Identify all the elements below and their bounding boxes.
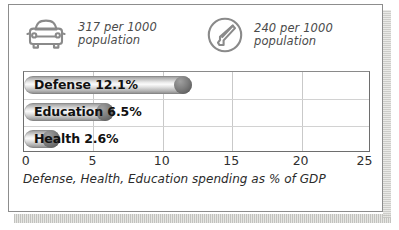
- x-tick-label: 25: [356, 153, 372, 168]
- stat-vehicles: 317 per 1000 population: [23, 15, 157, 53]
- panel-shadow-bottom: [14, 214, 391, 223]
- x-axis: 0510152025: [23, 153, 370, 170]
- white-panel: 317 per 1000 population 240 per 1000 pop…: [8, 4, 383, 212]
- x-tick-label: 0: [22, 153, 30, 168]
- x-tick-label: 5: [88, 153, 96, 168]
- x-tick-label: 15: [223, 153, 239, 168]
- bar-label-health: Health 2.6%: [34, 130, 118, 148]
- plot-area: Defense 12.1%Education 6.5%Health 2.6%: [23, 71, 370, 152]
- bar-label-education: Education 6.5%: [34, 103, 142, 121]
- car-icon: [23, 15, 69, 53]
- bar-row: Education 6.5%: [24, 99, 371, 126]
- bar-chart: Defense 12.1%Education 6.5%Health 2.6% 0…: [23, 71, 370, 186]
- infographic-panel-root: 317 per 1000 population 240 per 1000 pop…: [0, 0, 399, 230]
- bar-label-defense: Defense 12.1%: [34, 76, 138, 94]
- stat-phones-label: 240 per 1000 population: [254, 22, 333, 49]
- bar-cap-defense: [174, 76, 192, 94]
- x-tick-label: 20: [293, 153, 309, 168]
- stats-strip: 317 per 1000 population 240 per 1000 pop…: [9, 5, 382, 67]
- stat-phones: 240 per 1000 population: [205, 15, 333, 55]
- stat-vehicles-label: 317 per 1000 population: [78, 21, 157, 48]
- x-tick-label: 10: [154, 153, 170, 168]
- bar-row: Defense 12.1%: [24, 72, 371, 99]
- telephone-circle-icon: [205, 15, 245, 55]
- chart-caption: Defense, Health, Education spending as %…: [23, 172, 370, 186]
- bar-row: Health 2.6%: [24, 126, 371, 153]
- panel-shadow-right: [383, 10, 391, 218]
